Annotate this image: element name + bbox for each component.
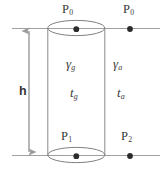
t-a-subscript: a <box>121 92 125 101</box>
label-p0-right-subscript: 0 <box>130 8 134 17</box>
point-p0-cylinder-axis <box>73 26 79 32</box>
label-p1-subscript: 1 <box>68 135 72 144</box>
cylinder-diagram: P0 P0 P1 P2 γg γa tg ta h <box>0 0 164 170</box>
label-t-a: ta <box>117 86 125 99</box>
label-gamma-g: γg <box>66 57 75 70</box>
gamma-a-subscript: a <box>118 63 122 72</box>
label-p0-right: P0 <box>123 3 134 16</box>
label-gamma-a: γa <box>113 57 122 70</box>
label-height: h <box>19 85 27 98</box>
label-p0-top: P0 <box>62 3 73 16</box>
label-p1-bottom: P1 <box>61 130 72 143</box>
point-p0-outside <box>127 26 133 32</box>
t-g-subscript: g <box>74 92 78 101</box>
label-p2-subscript: 2 <box>128 135 132 144</box>
point-p2-outside <box>127 153 133 159</box>
gamma-g-subscript: g <box>71 63 75 72</box>
point-p1-cylinder-axis <box>73 153 79 159</box>
label-p0-top-subscript: 0 <box>69 8 73 17</box>
label-p2-bottom-right: P2 <box>121 130 132 143</box>
label-t-g: tg <box>70 86 78 99</box>
